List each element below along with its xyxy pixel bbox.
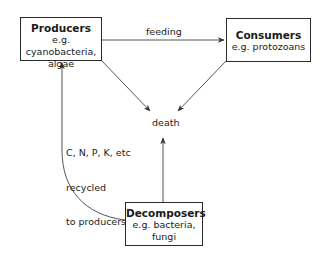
feeding-label: feeding	[146, 26, 182, 38]
recycle-label-line-3: to producers	[66, 216, 131, 228]
consumers-example: e.g. protozoans	[227, 41, 310, 53]
producers-node: Producers e.g. cyanobacteria, algae	[20, 17, 102, 61]
recycle-label: C, N, P, K, etc recycled to producers	[66, 124, 131, 239]
death-label: death	[152, 117, 179, 129]
decomposers-example-2: fungi	[126, 231, 202, 243]
recycle-label-line-1: C, N, P, K, etc	[66, 147, 131, 159]
consumers-title: Consumers	[227, 29, 310, 41]
decomposers-node: Decomposers e.g. bacteria, fungi	[125, 202, 203, 246]
decomposers-title: Decomposers	[126, 207, 202, 219]
producers-death-arrow	[101, 60, 150, 111]
producers-example-1: e.g. cyanobacteria,	[21, 34, 101, 58]
producers-title: Producers	[21, 22, 101, 34]
recycle-label-line-2: recycled	[66, 182, 131, 194]
decomposers-example-1: e.g. bacteria,	[126, 219, 202, 231]
consumers-death-arrow	[178, 61, 226, 111]
consumers-node: Consumers e.g. protozoans	[226, 18, 311, 62]
producers-example-2: algae	[21, 58, 101, 70]
